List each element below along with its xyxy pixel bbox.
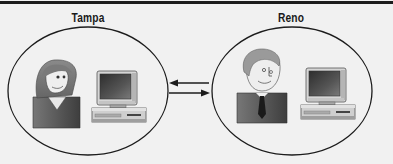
bidirectional-connection — [169, 80, 210, 97]
arrow-right-icon — [169, 90, 210, 97]
desktop-computer-icon-reno — [301, 68, 355, 119]
site-reno — [212, 27, 372, 155]
site-boundary-ellipse — [212, 27, 372, 155]
arrow-left-icon — [169, 80, 209, 87]
site-boundary-ellipse — [8, 27, 168, 155]
site-tampa — [8, 27, 168, 155]
desktop-computer-icon-tampa — [92, 71, 146, 122]
man-user-icon — [237, 49, 287, 123]
woman-user-icon — [33, 60, 80, 128]
